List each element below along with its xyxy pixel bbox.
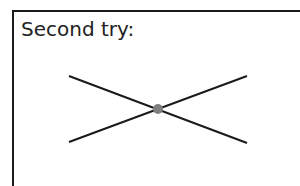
crossing-lines-diagram — [0, 0, 300, 186]
intersection-point — [153, 104, 163, 114]
